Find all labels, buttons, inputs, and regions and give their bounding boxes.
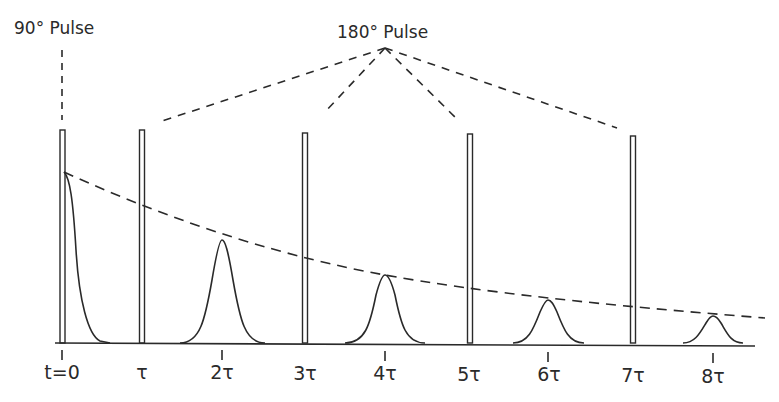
time-axis (55, 343, 755, 346)
echo-2tau (180, 240, 265, 343)
tick-label-tau: τ (136, 361, 147, 383)
pulse-180-3tau (303, 133, 308, 343)
echo-8tau (683, 316, 743, 343)
pulses (60, 130, 636, 343)
pulse-90 (60, 130, 65, 343)
echo-6tau (513, 300, 584, 343)
tick-label-5tau: 5τ (457, 363, 481, 385)
pulse-90-label: 90° Pulse (14, 18, 94, 38)
tick-label-t0: t=0 (44, 361, 79, 383)
tick-label-6tau: 6τ (537, 363, 561, 385)
echo-4tau (345, 275, 425, 343)
fid-signal (64, 172, 110, 343)
tick-label-3tau: 3τ (293, 362, 317, 384)
tick-label-7tau: 7τ (621, 364, 645, 386)
pulse-180-5tau (468, 134, 473, 343)
pulse-180-7tau (631, 136, 636, 343)
pulse-180-label: 180° Pulse (337, 22, 428, 42)
tick-label-2tau: 2τ (210, 361, 234, 383)
decay-envelope (64, 172, 765, 318)
spin-echo-diagram: 90° Pulse 180° Pulse t=0 τ 2τ 3τ 4τ 5τ (0, 0, 779, 402)
pulse-180-pointers (162, 48, 617, 128)
pulse-180-tau (140, 130, 145, 343)
tick-label-4tau: 4τ (373, 362, 397, 384)
tick-label-8tau: 8τ (701, 365, 725, 387)
